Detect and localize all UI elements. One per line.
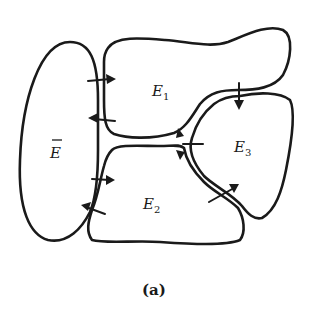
region-flow-diagram: E E 1 E 2 E 3 (a) xyxy=(0,0,313,314)
figure-caption: (a) xyxy=(142,281,166,299)
svg-text:1: 1 xyxy=(163,91,169,102)
region-e1-outline xyxy=(104,28,290,137)
region-e-bar-outline xyxy=(20,42,98,241)
svg-text:E: E xyxy=(142,195,154,213)
diagram-canvas: E E 1 E 2 E 3 (a) xyxy=(0,0,313,314)
svg-text:E: E xyxy=(233,138,245,156)
label-e1: E 1 xyxy=(151,82,169,102)
label-e-bar: E xyxy=(49,140,62,162)
svg-text:E: E xyxy=(151,82,163,100)
svg-text:2: 2 xyxy=(154,204,160,215)
label-e2: E 2 xyxy=(142,195,160,215)
svg-text:E: E xyxy=(49,144,61,162)
arrow-e1-to-ebar xyxy=(88,113,115,123)
svg-text:3: 3 xyxy=(245,147,251,158)
arrow-ebar-to-e1 xyxy=(88,74,116,84)
label-e3: E 3 xyxy=(233,138,251,158)
